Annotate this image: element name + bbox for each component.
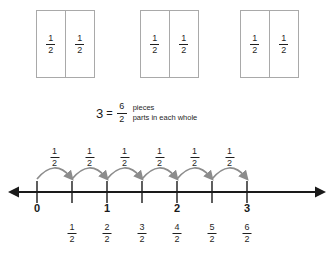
equation-numerator: 6: [119, 102, 124, 111]
equation-denominator: 2: [119, 115, 124, 124]
hop-arc-5: [177, 168, 211, 179]
number-line-fraction-label-2-over-2: 22: [103, 216, 112, 244]
fraction-one-half: 1 2: [75, 34, 84, 55]
whole-number-label-1: 1: [104, 202, 110, 214]
whole-box-3-half-1: 1 2: [241, 11, 270, 77]
axis-left-arrowhead: [8, 187, 19, 198]
number-line-fraction-2-2: 22: [103, 223, 112, 244]
whole-box-3-half-2: 1 2: [270, 11, 299, 77]
hop-label-5: 12: [190, 140, 199, 168]
hop-fraction-5: 12: [190, 147, 199, 168]
number-line-fraction-label-3-over-2: 32: [138, 216, 147, 244]
hop-arc-4: [142, 168, 176, 179]
fraction-one-half: 1 2: [279, 34, 288, 55]
hop-arc-6: [212, 168, 246, 179]
hop-label-4: 12: [155, 140, 164, 168]
number-line-fraction-label-1-over-2: 12: [68, 216, 77, 244]
number-line-fraction-label-6-over-2: 62: [243, 216, 252, 244]
number-line-fraction-4-2: 42: [173, 223, 182, 244]
whole-box-2-half-1: 1 2: [141, 11, 170, 77]
hop-fraction-1: 12: [50, 147, 59, 168]
number-line-axis: [8, 181, 326, 203]
whole-box-2-half-2: 1 2: [170, 11, 199, 77]
whole-model-box-3: 1 2 1 2: [240, 10, 299, 78]
whole-box-1-half-2: 1 2: [66, 11, 95, 77]
whole-number-label-3: 3: [244, 202, 250, 214]
whole-number-label-0: 0: [34, 202, 40, 214]
whole-box-1-half-1: 1 2: [37, 11, 66, 77]
equation-fraction-six-halves: 6 2: [117, 102, 127, 124]
equation-three-equals-six-halves: 3 = 6 2 pieces parts in each whole: [96, 101, 197, 125]
hop-fraction-6: 12: [225, 147, 234, 168]
whole-model-box-2: 1 2 1 2: [140, 10, 199, 78]
hop-fraction-2: 12: [85, 147, 94, 168]
hop-arc-3: [107, 168, 141, 179]
fraction-one-half: 1 2: [46, 34, 55, 55]
equation-whole-number: 3: [96, 106, 103, 121]
hop-fraction-3: 12: [120, 147, 129, 168]
hop-arc-1: [37, 168, 71, 179]
axis-right-arrowhead: [315, 187, 326, 198]
number-line: 121212121212 0123 122232425262: [0, 140, 334, 257]
equation-annotations: pieces parts in each whole: [133, 103, 198, 123]
hop-label-1: 12: [50, 140, 59, 168]
number-line-fraction-6-2: 62: [243, 223, 252, 244]
hop-label-3: 12: [120, 140, 129, 168]
number-line-fraction-5-2: 52: [208, 223, 217, 244]
number-line-fraction-1-2: 12: [68, 223, 77, 244]
number-line-fraction-3-2: 32: [138, 223, 147, 244]
numerator-annotation: pieces: [133, 103, 198, 113]
hop-arcs: [37, 168, 246, 179]
equals-sign: =: [106, 107, 112, 119]
hop-arc-2: [72, 168, 106, 179]
fraction-number-line-diagram: 1 2 1 2 1 2 1 2: [0, 0, 334, 257]
whole-number-label-2: 2: [174, 202, 180, 214]
fraction-one-half: 1 2: [250, 34, 259, 55]
fraction-one-half: 1 2: [150, 34, 159, 55]
hop-fraction-4: 12: [155, 147, 164, 168]
number-line-fraction-label-4-over-2: 42: [173, 216, 182, 244]
denominator-annotation: parts in each whole: [133, 113, 198, 123]
number-line-fraction-label-5-over-2: 52: [208, 216, 217, 244]
whole-model-box-1: 1 2 1 2: [36, 10, 95, 78]
hop-label-6: 12: [225, 140, 234, 168]
hop-label-2: 12: [85, 140, 94, 168]
fraction-one-half: 1 2: [179, 34, 188, 55]
